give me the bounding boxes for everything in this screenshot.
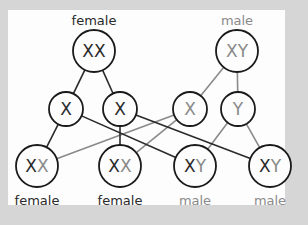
genotype-text: XY bbox=[226, 41, 249, 61]
genotype-text: XX bbox=[25, 156, 49, 176]
genotype-text: X bbox=[114, 99, 126, 119]
offspring-sex-label: male bbox=[254, 193, 286, 208]
genotype-text: XX bbox=[108, 156, 132, 176]
gamete-node-x: X bbox=[49, 92, 83, 126]
offspring-node-male: XY bbox=[174, 145, 216, 187]
offspring-sex-label: female bbox=[15, 193, 60, 208]
offspring-sex-label: male bbox=[179, 193, 211, 208]
offspring-sex-label: female bbox=[98, 193, 143, 208]
genotype-text: X bbox=[184, 99, 196, 119]
gamete-offspring-line bbox=[208, 123, 228, 150]
gamete-node-x: X bbox=[103, 92, 137, 126]
parent-gamete-line bbox=[201, 67, 224, 95]
gamete-offspring-line bbox=[246, 124, 259, 148]
gamete-offspring-line bbox=[136, 120, 177, 153]
genotype-text: XX bbox=[82, 41, 106, 61]
parent-sex-label: male bbox=[221, 13, 253, 28]
inheritance-diagram: femaleXXmaleXYXXXYXXfemaleXXfemaleXYmale… bbox=[0, 0, 308, 225]
parent-gamete-line bbox=[103, 70, 113, 93]
genotype-text: XY bbox=[259, 156, 282, 176]
gamete-offspring-line bbox=[47, 124, 59, 147]
parent-gamete-line bbox=[73, 70, 84, 94]
parent-node-female: XX bbox=[73, 30, 115, 72]
parent-sex-label: female bbox=[72, 13, 117, 28]
gamete-node-y: Y bbox=[221, 92, 255, 126]
genotype-text: X bbox=[60, 99, 72, 119]
gamete-node-x: X bbox=[173, 92, 207, 126]
genotype-text: XY bbox=[184, 156, 207, 176]
parent-node-male: XY bbox=[216, 30, 258, 72]
offspring-node-female: XX bbox=[16, 145, 58, 187]
offspring-node-male: XY bbox=[249, 145, 291, 187]
offspring-node-female: XX bbox=[99, 145, 141, 187]
genotype-text: Y bbox=[232, 99, 244, 119]
